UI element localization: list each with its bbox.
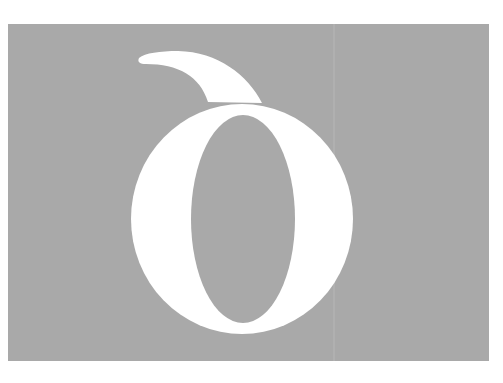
glyph-tail — [138, 51, 262, 103]
delta-glyph-icon — [0, 0, 503, 383]
glyph-counter — [191, 115, 295, 323]
